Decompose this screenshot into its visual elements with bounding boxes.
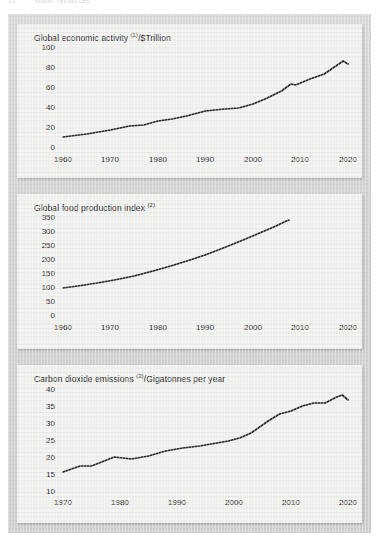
x-tick-label: 1970 xyxy=(46,498,80,507)
x-tick-label: 1980 xyxy=(103,498,137,507)
running-title: Water resources xyxy=(35,0,91,4)
page-folio: 12 xyxy=(8,0,16,4)
x-tick-label: 1960 xyxy=(46,323,80,332)
page-running-header: 12 Water resources xyxy=(8,0,90,4)
x-tick-label: 2010 xyxy=(283,155,317,164)
x-tick-label: 2020 xyxy=(331,498,365,507)
x-tick-label: 1990 xyxy=(188,155,222,164)
x-tick-label: 2020 xyxy=(331,323,365,332)
x-tick-label: 2020 xyxy=(331,155,365,164)
x-tick-label: 2000 xyxy=(236,323,270,332)
x-tick-label: 1980 xyxy=(141,323,175,332)
x-tick-label: 1970 xyxy=(93,323,127,332)
figure-background: Global economic activity (1)/$Trillion 1… xyxy=(8,14,371,533)
x-tick-label: 2010 xyxy=(283,323,317,332)
x-tick-label: 2000 xyxy=(236,155,270,164)
x-tick-label: 1980 xyxy=(141,155,175,164)
chart-panel-global-food-production-index: Global food production index (2) 350 300… xyxy=(17,194,362,349)
chart-panel-global-economic-activity: Global economic activity (1)/$Trillion 1… xyxy=(17,24,362,178)
x-tick-label: 1990 xyxy=(188,323,222,332)
chart-panel-carbon-dioxide-emissions: Carbon dioxide emissions (3)/Gigatonnes … xyxy=(17,365,362,523)
x-tick-label: 1970 xyxy=(93,155,127,164)
x-tick-label: 2010 xyxy=(274,498,308,507)
x-tick-label: 2000 xyxy=(217,498,251,507)
x-tick-label: 1960 xyxy=(46,155,80,164)
x-tick-label: 1990 xyxy=(160,498,194,507)
